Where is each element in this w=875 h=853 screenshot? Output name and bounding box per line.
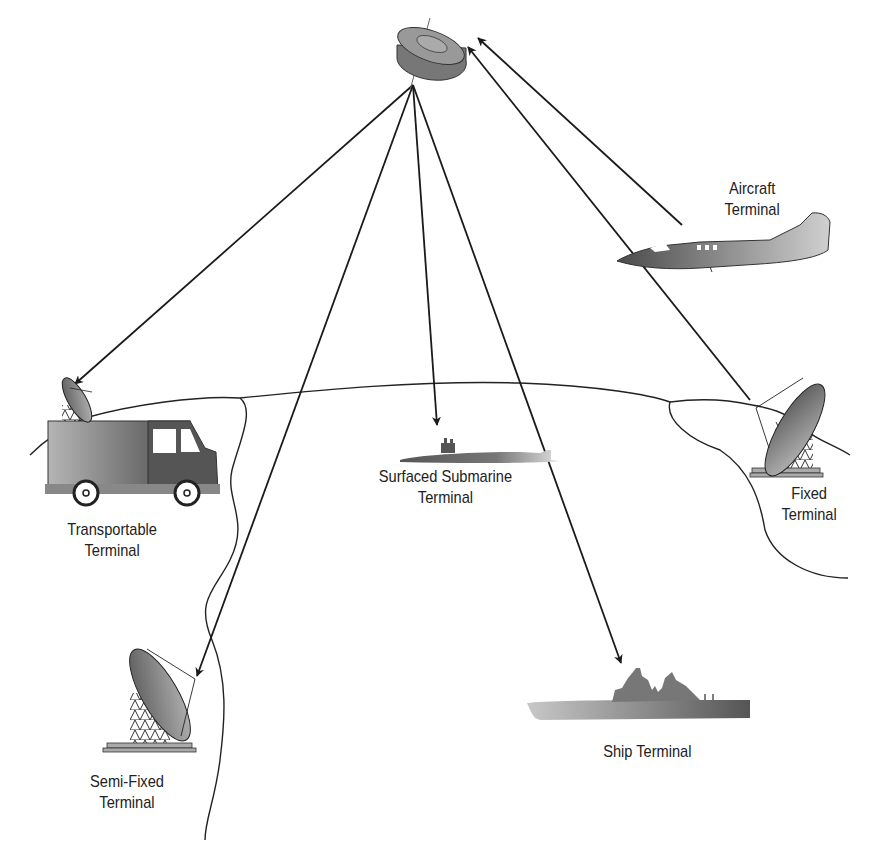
label-fixed: Fixed Terminal bbox=[781, 483, 836, 525]
dish-antenna-icon-fixed bbox=[750, 376, 836, 483]
uplink-aircraft bbox=[478, 38, 682, 225]
downlink-submarine bbox=[413, 85, 437, 425]
label-ship: Ship Terminal bbox=[603, 741, 691, 762]
label-submarine: Surfaced Submarine Terminal bbox=[379, 466, 512, 508]
satellite-terminal-diagram: Aircraft Terminal Transportable Terminal… bbox=[0, 0, 875, 853]
dish-antenna-icon-semifixed bbox=[103, 641, 202, 752]
submarine-icon bbox=[400, 438, 560, 463]
downlink-transportable bbox=[75, 85, 413, 384]
uplink-fixed bbox=[468, 47, 750, 400]
downlink-semifixed bbox=[197, 85, 413, 676]
aircraft-icon bbox=[617, 213, 830, 272]
ship-icon bbox=[527, 668, 750, 720]
downlink-ship bbox=[413, 85, 621, 663]
label-transportable: Transportable Terminal bbox=[67, 519, 157, 561]
van-dish-icon bbox=[45, 374, 220, 505]
satellite-icon bbox=[393, 18, 469, 90]
label-semifixed: Semi-Fixed Terminal bbox=[90, 771, 164, 813]
label-aircraft: Aircraft Terminal bbox=[724, 178, 779, 220]
links bbox=[75, 38, 750, 676]
